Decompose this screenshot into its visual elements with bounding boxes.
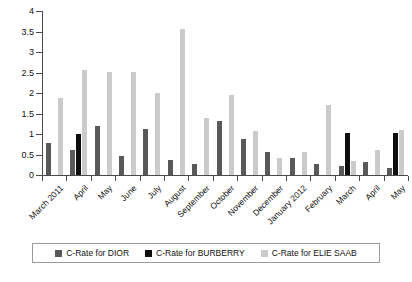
x-axis-tick — [286, 176, 287, 181]
bar — [253, 131, 258, 175]
bar — [393, 133, 398, 175]
legend-label: C-Rate for ELIE SAAB — [272, 249, 357, 258]
bar-group — [290, 11, 307, 175]
x-axis-tick — [66, 176, 67, 181]
legend-label: C-Rate for DIOR — [66, 249, 129, 258]
x-axis-label: April — [71, 183, 90, 202]
bar — [229, 95, 234, 175]
bar — [314, 164, 319, 175]
y-axis-tick-label: 1.5 — [21, 109, 34, 118]
bar — [131, 72, 136, 175]
bar-group — [143, 11, 160, 175]
bar-group — [46, 11, 63, 175]
bar — [241, 139, 246, 175]
bar — [107, 72, 112, 175]
legend-swatch-icon — [145, 250, 152, 257]
x-axis-tick — [140, 176, 141, 181]
bar — [351, 161, 356, 175]
legend-item: C-Rate for DIOR — [55, 249, 129, 258]
x-axis-tick — [188, 176, 189, 181]
legend-swatch-icon — [261, 250, 268, 257]
x-axis-label: March — [334, 183, 358, 207]
x-axis-tick — [359, 176, 360, 181]
bar-group — [314, 11, 331, 175]
legend-item: C-Rate for ELIE SAAB — [261, 249, 357, 258]
x-axis-tick — [237, 176, 238, 181]
plot-area — [42, 11, 408, 175]
bar — [302, 152, 307, 175]
bar — [70, 150, 75, 175]
y-axis-tick-label: 3 — [29, 48, 34, 57]
bar-group — [192, 11, 209, 175]
x-axis-tick — [262, 176, 263, 181]
bar — [339, 166, 344, 175]
x-axis-tick — [213, 176, 214, 181]
bar — [46, 143, 51, 175]
bar — [180, 29, 185, 175]
bar-chart: 00.511.522.533.54 March 2011AprilMayJune… — [0, 0, 412, 282]
x-axis-tick — [408, 176, 409, 181]
bar-group — [70, 11, 87, 175]
x-axis-tick — [310, 176, 311, 181]
legend-item: C-Rate for BURBERRY — [145, 249, 245, 258]
y-axis-tick-label: 0 — [29, 171, 34, 180]
bar — [119, 156, 124, 175]
bar — [277, 158, 282, 175]
bar-group — [387, 11, 404, 175]
legend-label: C-Rate for BURBERRY — [156, 249, 245, 258]
bar-group — [339, 11, 356, 175]
x-axis-line — [42, 175, 408, 176]
bar — [363, 162, 368, 175]
bar — [265, 152, 270, 175]
x-axis-tick — [42, 176, 43, 181]
bar — [82, 70, 87, 175]
bar — [326, 105, 331, 175]
bar-group — [241, 11, 258, 175]
bar-group — [265, 11, 282, 175]
bar — [143, 129, 148, 175]
y-axis-tick-label: 2 — [29, 89, 34, 98]
bar — [345, 133, 350, 175]
bar-group — [363, 11, 380, 175]
y-axis-tick-label: 4 — [29, 7, 34, 16]
bar — [204, 118, 209, 175]
bar — [76, 134, 81, 175]
legend-swatch-icon — [55, 250, 62, 257]
y-axis-tick-label: 1 — [29, 130, 34, 139]
y-axis-tick-label: 0.5 — [21, 150, 34, 159]
bar — [192, 164, 197, 175]
x-axis-label: July — [145, 183, 163, 201]
x-axis-label: June — [119, 183, 139, 203]
bar — [399, 130, 404, 175]
y-axis-tick-label: 2.5 — [21, 68, 34, 77]
bar-group — [168, 11, 185, 175]
x-axis-tick — [91, 176, 92, 181]
x-axis-label: April — [363, 183, 382, 202]
bar-group — [119, 11, 136, 175]
x-axis-tick — [335, 176, 336, 181]
bar — [290, 158, 295, 175]
y-axis-tick-label: 3.5 — [21, 27, 34, 36]
x-axis-label: May — [96, 183, 114, 201]
bar-group — [95, 11, 112, 175]
bar — [95, 126, 100, 175]
x-axis-tick — [164, 176, 165, 181]
x-axis-label: May — [389, 183, 407, 201]
bar — [375, 150, 380, 175]
x-axis-tick — [384, 176, 385, 181]
bar — [155, 93, 160, 175]
x-axis-label: March 2011 — [27, 183, 65, 221]
bar — [168, 160, 173, 175]
bar — [58, 98, 63, 175]
bar — [217, 121, 222, 175]
bar-group — [217, 11, 234, 175]
chart-legend: C-Rate for DIORC-Rate for BURBERRYC-Rate… — [32, 243, 380, 263]
x-axis-tick — [115, 176, 116, 181]
bar — [387, 168, 392, 175]
